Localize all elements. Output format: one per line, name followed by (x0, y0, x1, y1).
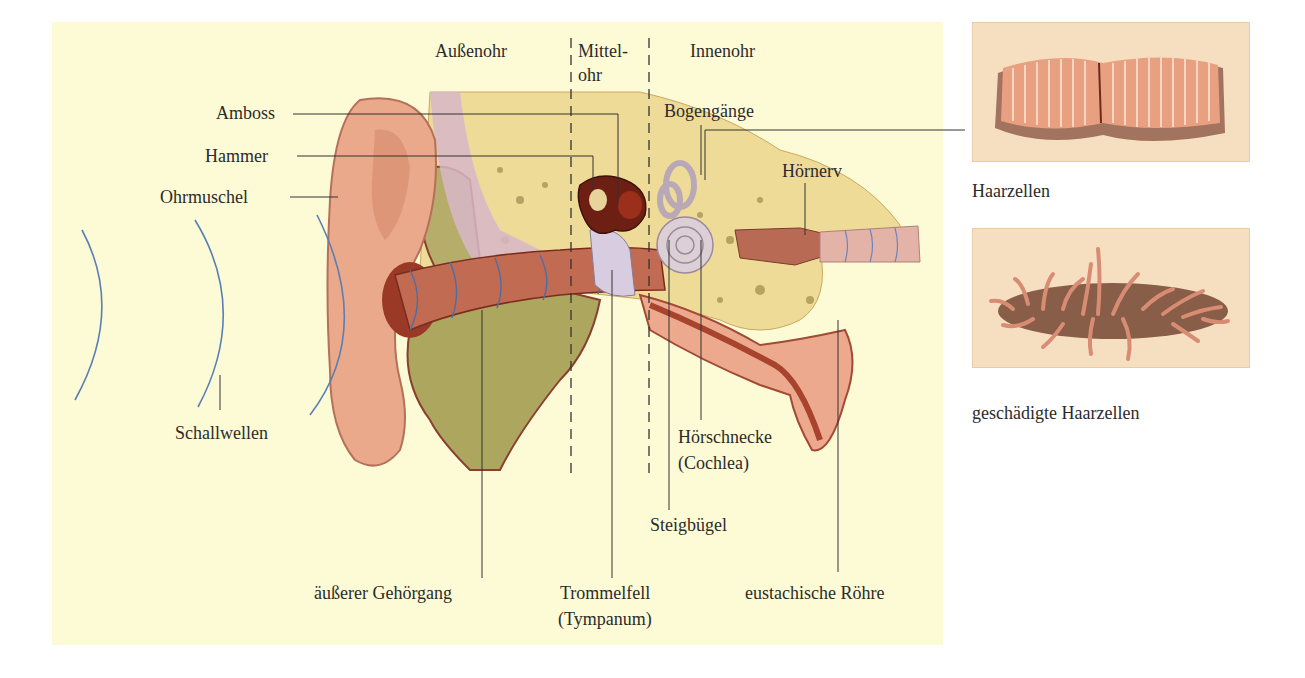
inset-damaged-hair-cells (972, 228, 1250, 368)
healthy-hair-cells-image (973, 23, 1249, 161)
label-auricle: Ohrmuschel (160, 186, 248, 208)
label-stirrup: Steigbügel (650, 514, 727, 536)
label-cochlea-1: Hörschnecke (678, 426, 772, 448)
label-semicircular-canals: Bogengänge (664, 100, 754, 122)
inset-caption-healthy: Haarzellen (972, 180, 1050, 202)
label-eardrum-2: (Tympanum) (558, 608, 652, 630)
label-cochlea-2: (Cochlea) (678, 452, 749, 474)
inset-caption-damaged: geschädigte Haarzellen (972, 402, 1139, 424)
cochlea-spiral (657, 217, 713, 273)
label-eustachian-tube: eustachische Röhre (745, 582, 884, 604)
region-label-middle-ear-1: Mittel- (578, 40, 628, 62)
hammer-head (589, 189, 607, 211)
label-auditory-nerve: Hörnerv (782, 160, 842, 182)
region-label-outer-ear: Außenohr (435, 40, 507, 62)
inset-healthy-hair-cells (972, 22, 1250, 162)
region-label-inner-ear: Innenohr (690, 40, 755, 62)
damaged-hair-cells-image (973, 229, 1249, 367)
label-anvil: Amboss (216, 102, 275, 124)
label-ear-canal: äußerer Gehörgang (314, 582, 452, 604)
label-hammer: Hammer (205, 145, 268, 167)
label-sound-waves: Schallwellen (175, 422, 268, 444)
region-label-middle-ear-2: ohr (578, 64, 602, 86)
anvil-body (618, 191, 642, 219)
sound-waves (75, 215, 344, 415)
nerve-sheath (820, 226, 920, 262)
label-eardrum-1: Trommelfell (560, 582, 650, 604)
